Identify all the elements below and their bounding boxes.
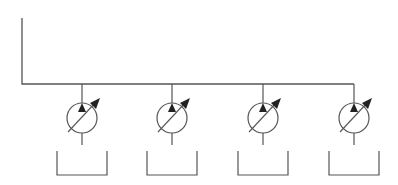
pump-group [67,84,372,145]
reservoir-icon [147,151,197,175]
variable-pump-icon [339,84,372,145]
flow-arrow-icon [168,103,176,112]
tank-group [57,151,379,175]
flow-arrow-icon [259,103,267,112]
reservoir-icon [238,151,288,175]
flow-arrow-icon [350,103,358,112]
flow-arrow-icon [78,103,86,112]
hydraulic-diagram [0,0,398,185]
supply-line-path [22,18,354,84]
supply-line [22,18,354,84]
variable-pump-icon [67,84,100,145]
reservoir-icon [57,151,107,175]
variable-pump-icon [248,84,281,145]
reservoir-icon [329,151,379,175]
variable-pump-icon [157,84,190,145]
